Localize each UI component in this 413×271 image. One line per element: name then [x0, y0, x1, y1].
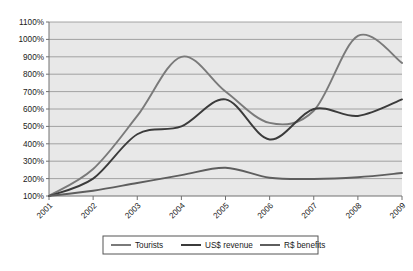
y-axis-tick-label: 900%: [23, 53, 44, 62]
chart-container: 100%200%300%400%500%600%700%800%900%1000…: [0, 0, 413, 271]
y-axis-tick-label: 800%: [23, 70, 44, 79]
legend-label-tourists: Tourists: [135, 241, 163, 250]
y-axis-tick-label: 200%: [23, 175, 44, 184]
y-axis-tick-label: 1100%: [19, 18, 44, 27]
y-axis-tick-label: 300%: [23, 157, 44, 166]
y-axis-tick-label: 1000%: [19, 35, 45, 44]
y-axis-tick-label: 100%: [23, 192, 44, 201]
legend-label-us-revenue: US$ revenue: [205, 241, 253, 250]
y-axis-tick-label: 400%: [23, 140, 44, 149]
y-axis-tick-label: 600%: [23, 105, 44, 114]
y-axis-tick-label: 500%: [23, 122, 44, 131]
legend-label-r-benefits: R$ benefits: [284, 241, 325, 250]
line-chart: 100%200%300%400%500%600%700%800%900%1000…: [0, 0, 413, 271]
y-axis-tick-label: 700%: [23, 88, 44, 97]
legend: TouristsUS$ revenueR$ benefits: [111, 241, 325, 250]
